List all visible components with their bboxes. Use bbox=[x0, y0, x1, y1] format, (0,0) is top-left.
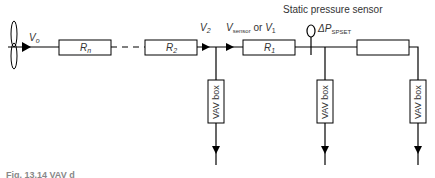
label-v2: V2 bbox=[200, 22, 211, 34]
figure-caption: Fig. 13.14 VAV d bbox=[6, 170, 75, 178]
label-vsensor: Vsensor or V1 bbox=[226, 22, 276, 34]
pressure-sensor-icon bbox=[307, 25, 315, 37]
flow-arrow-icon bbox=[226, 43, 234, 51]
fan-icon bbox=[11, 21, 17, 69]
flow-arrow-icon bbox=[22, 42, 31, 52]
resistor-last bbox=[357, 40, 409, 55]
vav-box-1-label: VAV box bbox=[211, 85, 221, 119]
vav-box-2-label: VAV box bbox=[320, 85, 330, 119]
label-vo: Vo bbox=[29, 32, 40, 44]
label-delta-p: ΔPSPSET bbox=[317, 23, 351, 35]
label-static-pressure-sensor: Static pressure sensor bbox=[283, 4, 383, 15]
vav-box-3-label: VAV box bbox=[413, 85, 423, 119]
flow-arrow-icon bbox=[202, 43, 210, 51]
vav-duct-diagram: Vo Rn R2 R1 V2 Vsensor or V1 Static pres… bbox=[0, 0, 435, 178]
